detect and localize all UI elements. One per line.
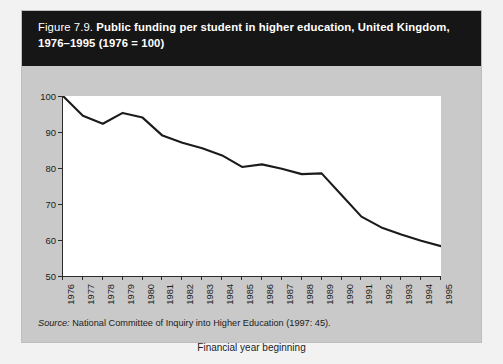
y-axis-tick-label: 100 [40, 91, 56, 102]
figure-title-bar: Figure 7.9. Public funding per student i… [22, 11, 481, 66]
x-axis-title: Financial year beginning [22, 342, 481, 353]
source-text: National Committee of Inquiry into Highe… [72, 318, 330, 328]
x-axis-tick-label: 1986 [265, 284, 275, 305]
x-axis-tick-label: 1988 [305, 284, 315, 305]
data-line [63, 96, 441, 246]
x-axis-tick-label: 1985 [245, 284, 255, 305]
data-line-svg [63, 96, 441, 276]
y-axis-labels: 5060708090100 [22, 96, 56, 276]
y-axis-tick-label: 90 [45, 127, 56, 138]
source-note: Source: National Committee of Inquiry in… [38, 318, 331, 328]
x-axis-tick-label: 1987 [285, 284, 295, 305]
x-axis-tick-label: 1984 [225, 284, 235, 305]
x-axis-tick-label: 1983 [205, 284, 215, 305]
x-axis-tick-label: 1993 [404, 284, 414, 305]
figure-number: Figure 7.9. [38, 21, 93, 33]
x-axis-tick-label: 1991 [364, 284, 374, 305]
x-axis-tick-label: 1994 [424, 284, 434, 305]
x-axis-tick-label: 1979 [126, 284, 136, 305]
figure-title-line2: 1976–1995 (1976 = 100) [38, 37, 164, 49]
x-axis-tick-label: 1980 [146, 284, 156, 305]
plot-area [62, 96, 441, 277]
x-axis-tick-label: 1976 [66, 284, 76, 305]
y-axis-tick-label: 60 [45, 235, 56, 246]
x-axis-tick-label: 1982 [185, 284, 195, 305]
y-axis-tick-label: 80 [45, 163, 56, 174]
figure-title-line1: Public funding per student in higher edu… [96, 21, 449, 33]
chart-container: 5060708090100 19761977197819791980198119… [22, 66, 481, 342]
x-axis-tick-label: 1995 [444, 284, 454, 305]
x-axis-tick-label: 1992 [384, 284, 394, 305]
x-axis-tick-label: 1989 [325, 284, 335, 305]
x-axis-tick-label: 1978 [106, 284, 116, 305]
y-axis-tick-label: 70 [45, 199, 56, 210]
x-axis-tick-label: 1990 [345, 284, 355, 305]
source-label: Source: [38, 318, 70, 328]
figure-panel: Figure 7.9. Public funding per student i… [22, 11, 481, 342]
y-axis-tick-label: 50 [45, 271, 56, 282]
x-axis-tick-label: 1981 [165, 284, 175, 305]
x-axis-tick-label: 1977 [86, 284, 96, 305]
figure-title: Figure 7.9. Public funding per student i… [38, 20, 467, 51]
